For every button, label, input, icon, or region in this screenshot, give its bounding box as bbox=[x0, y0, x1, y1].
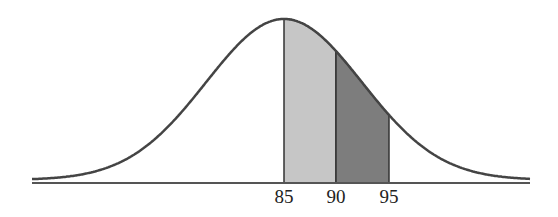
tick-label-85: 85 bbox=[275, 186, 294, 207]
bell-curve bbox=[32, 19, 530, 179]
tick-label-90: 90 bbox=[327, 186, 346, 207]
shaded-region-90-95 bbox=[336, 51, 389, 183]
normal-distribution-chart: 85 90 95 bbox=[0, 0, 558, 217]
tick-label-95: 95 bbox=[380, 186, 399, 207]
